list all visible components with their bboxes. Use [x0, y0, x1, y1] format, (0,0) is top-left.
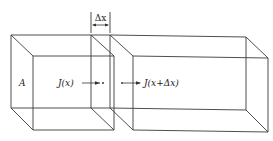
flux-in: J(x): [56, 78, 104, 88]
arrow-right-icon: [95, 81, 100, 84]
flux-in-label: J(x): [56, 78, 74, 88]
delta-x-label: Δx: [95, 13, 107, 23]
delta-x-dimension: Δx: [91, 12, 110, 33]
flux-out-label: J(x+Δx): [142, 78, 179, 88]
arrow-right-icon: [136, 81, 141, 84]
diffusion-prism-diagram: Δx A J(x) J(x+Δx): [0, 0, 273, 141]
flux-out: J(x+Δx): [121, 78, 179, 88]
right-block: [110, 35, 268, 132]
area-label: A: [18, 78, 26, 88]
